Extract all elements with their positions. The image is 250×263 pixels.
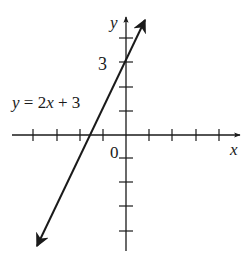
equation-label: y = 2x + 3: [10, 93, 80, 112]
equation-end: + 3: [54, 93, 81, 112]
y-axis-label: y: [108, 13, 118, 32]
line-y-equals-2x-plus-3: [37, 20, 145, 246]
coordinate-plane: y x 0 3 y = 2x + 3: [0, 0, 250, 263]
y-tick-label-3: 3: [98, 54, 107, 74]
x-axis-label: x: [229, 140, 238, 159]
origin-label: 0: [110, 143, 119, 162]
equation-mid: = 2: [20, 93, 47, 112]
equation-y: y: [10, 93, 20, 112]
